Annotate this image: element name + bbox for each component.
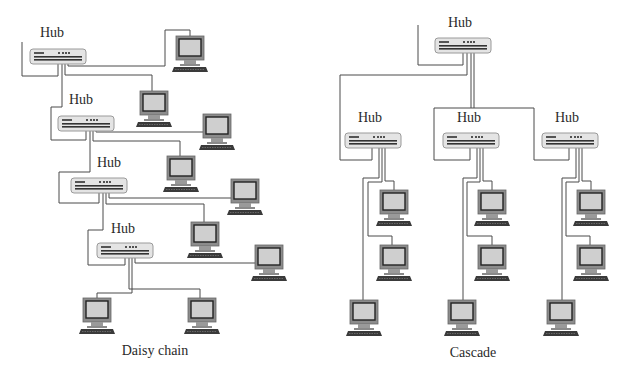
computer-icon	[376, 245, 412, 281]
computer-icon	[79, 298, 115, 334]
hub-cascade-1	[345, 133, 401, 148]
computer-icon	[199, 114, 235, 150]
computer-icon	[346, 300, 382, 336]
hub-label: Hub	[111, 222, 135, 236]
hub-cascade-3	[542, 133, 598, 148]
computer-icon	[474, 190, 510, 226]
hub-cascade-2	[443, 133, 499, 148]
hub-label: Hub	[97, 156, 121, 170]
hub-label: Hub	[457, 111, 481, 125]
computer-icon	[573, 245, 609, 281]
computer-icon	[543, 300, 579, 336]
cable	[562, 141, 576, 300]
hub-daisy-4	[97, 243, 153, 258]
computer-icon	[187, 222, 223, 258]
hub-label: Hub	[40, 26, 64, 40]
caption-daisy-chain: Daisy chain	[122, 344, 188, 358]
computer-icon	[573, 190, 609, 226]
network-topology-diagram	[0, 0, 627, 378]
hub-daisy-2	[58, 116, 114, 131]
cable	[463, 141, 477, 300]
computer-icon	[251, 245, 287, 281]
hub-label: Hub	[448, 16, 472, 30]
caption-cascade: Cascade	[450, 346, 497, 360]
cable	[363, 141, 379, 300]
computer-icon	[172, 36, 208, 72]
computer-icon	[163, 156, 199, 192]
cascade-diagram	[340, 25, 591, 300]
hub-cascade-top	[435, 38, 491, 53]
computer-icon	[184, 298, 220, 334]
hub-label: Hub	[358, 111, 382, 125]
computer-icon	[376, 190, 412, 226]
hub-daisy-3	[71, 178, 127, 193]
hub-label: Hub	[555, 111, 579, 125]
hub-label: Hub	[69, 93, 93, 107]
computer-icon	[474, 245, 510, 281]
hub-daisy-1	[30, 49, 86, 64]
computer-icon	[444, 300, 480, 336]
computer-icon	[227, 179, 263, 215]
computer-icon	[136, 91, 172, 127]
